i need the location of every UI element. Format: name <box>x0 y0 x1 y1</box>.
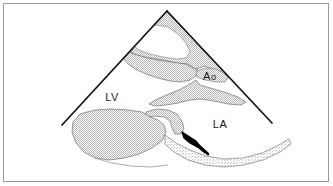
label-aorta-main: A <box>203 70 211 82</box>
posterior-la-wall-shape <box>165 135 291 167</box>
label-left-ventricle: LV <box>105 91 119 103</box>
figure-root: LV A o LA <box>0 0 333 186</box>
anterior-mitral-leaflet-shape <box>149 80 246 106</box>
label-aorta-sub: o <box>211 72 216 82</box>
echocardiogram-diagram: LV A o LA <box>0 0 333 186</box>
label-left-atrium: LA <box>213 118 228 130</box>
